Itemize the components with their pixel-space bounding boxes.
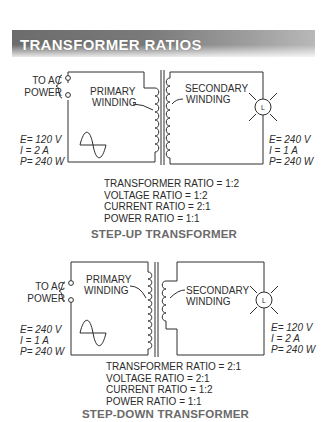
sine-wave-icon (80, 132, 106, 158)
primary-coil-icon (148, 272, 152, 355)
primary-winding-label: WINDING (92, 97, 137, 108)
secondary-winding-label: WINDING (186, 296, 231, 307)
step-up-caption: STEP-UP TRANSFORMER (91, 228, 237, 240)
source-label: POWER (24, 87, 62, 98)
power-ratio: POWER RATIO = 1:1 (104, 213, 239, 225)
secondary-coil-icon (162, 262, 177, 355)
terminal-icon (69, 281, 74, 286)
primary-winding-label: PRIMARY (90, 86, 136, 97)
secondary-power: P= 240 W (269, 156, 315, 167)
primary-current: I = 2 A (20, 145, 49, 156)
step-down-ratios: TRANSFORMER RATIO = 2:1 VOLTAGE RATIO = … (106, 361, 241, 407)
secondary-winding-label: SECONDARY (186, 285, 249, 296)
secondary-coil-icon (166, 72, 170, 164)
power-ratio: POWER RATIO = 1:1 (106, 396, 241, 408)
primary-winding-label: WINDING (84, 285, 129, 296)
primary-power: P= 240 W (20, 156, 66, 167)
current-ratio: CURRENT RATIO = 1:2 (106, 384, 241, 396)
current-ratio: CURRENT RATIO = 2:1 (104, 201, 239, 213)
terminal-icon (66, 93, 71, 98)
load-symbol: L (262, 297, 266, 304)
sine-wave-icon (80, 320, 106, 346)
terminal-icon (66, 76, 71, 81)
source-label: POWER (27, 293, 65, 304)
secondary-voltage: E= 120 V (271, 322, 314, 333)
primary-voltage: E= 120 V (20, 134, 63, 145)
transformer-ratio: TRANSFORMER RATIO = 2:1 (106, 361, 241, 373)
load-symbol: L (261, 104, 265, 111)
source-label: TO AC (35, 281, 65, 292)
primary-voltage: E= 240 V (20, 324, 63, 335)
transformer-ratio: TRANSFORMER RATIO = 1:2 (104, 178, 239, 190)
source-label: TO AC (32, 75, 62, 86)
primary-coil-icon (155, 88, 159, 162)
voltage-ratio: VOLTAGE RATIO = 2:1 (106, 373, 241, 385)
secondary-winding-label: WINDING (186, 94, 231, 105)
secondary-current: I = 1 A (269, 145, 298, 156)
secondary-current: I = 2 A (271, 333, 300, 344)
terminal-icon (69, 298, 74, 303)
primary-winding-label: PRIMARY (86, 274, 132, 285)
primary-current: I = 1 A (20, 335, 49, 346)
step-down-caption: STEP-DOWN TRANSFORMER (82, 408, 249, 420)
secondary-power: P= 240 W (271, 344, 317, 355)
primary-power: P= 240 W (20, 346, 66, 357)
step-up-ratios: TRANSFORMER RATIO = 1:2 VOLTAGE RATIO = … (104, 178, 239, 224)
secondary-winding-label: SECONDARY (185, 83, 248, 94)
secondary-voltage: E= 240 V (269, 134, 312, 145)
voltage-ratio: VOLTAGE RATIO = 1:2 (104, 190, 239, 202)
